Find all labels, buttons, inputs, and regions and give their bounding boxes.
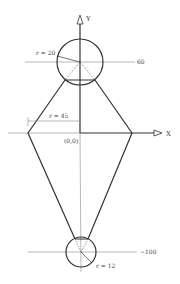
diagram-canvas: Y X (0,0) r = 20 60 r = 45 −100 r = 12 [0, 0, 180, 284]
lower-center-y-label: −100 [140, 248, 157, 255]
side-distance-label: r = 45 [49, 112, 69, 119]
y-axis-label: Y [85, 15, 91, 23]
upper-radius-line [57, 56, 80, 62]
outline-left [28, 80, 75, 239]
x-axis-arrow-icon [154, 130, 162, 136]
upper-center-y-label: 60 [137, 58, 145, 65]
y-axis-arrow-icon [77, 15, 83, 24]
lower-dashed-left [75, 239, 81, 252]
upper-dashed-left [65, 62, 80, 80]
origin-label: (0,0) [64, 137, 78, 144]
upper-dashed-right [80, 62, 95, 80]
x-axis-label: X [166, 130, 171, 138]
lower-dashed-right [81, 239, 88, 252]
upper-radius-label: r = 20 [36, 49, 56, 56]
lower-radius-label: r = 12 [96, 262, 116, 269]
outline-right [88, 80, 132, 239]
lower-radius-line [81, 252, 92, 263]
